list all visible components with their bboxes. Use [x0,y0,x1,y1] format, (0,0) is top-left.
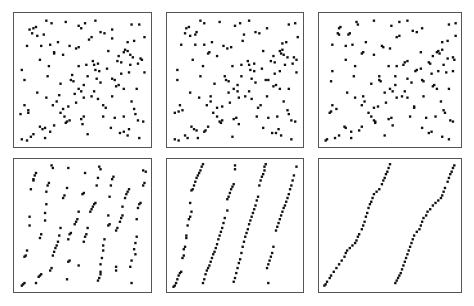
data-point [454,35,456,37]
data-point [216,107,218,109]
data-point [174,138,176,140]
data-point [103,32,105,34]
data-point [116,60,118,62]
data-point [74,223,76,225]
data-point [195,177,197,179]
data-point [361,104,363,106]
data-point [137,62,139,64]
data-point [220,122,222,124]
data-point [99,81,101,83]
data-point [240,75,242,77]
data-point [434,115,436,117]
data-point [263,169,265,171]
data-point [385,173,387,175]
data-point [416,69,418,71]
data-point [59,227,61,229]
data-point [102,244,104,246]
data-point [23,79,25,81]
data-point [341,259,343,261]
data-point [189,91,191,93]
data-point [426,211,428,213]
data-point [275,84,277,86]
data-point [229,101,231,103]
data-point [286,197,288,199]
data-point [402,264,404,266]
data-point [279,88,281,90]
data-point [32,133,34,135]
data-point [254,81,256,83]
data-point [186,137,188,139]
data-point [80,118,82,120]
data-point [358,233,360,235]
data-point [351,244,353,246]
data-point [145,171,147,173]
data-point [409,115,411,117]
data-point [62,197,64,199]
data-point [406,253,408,255]
data-point [213,83,215,85]
data-point [243,33,245,35]
data-point [86,133,88,135]
data-point [381,183,383,185]
data-point [387,167,389,169]
data-point [331,104,333,106]
data-point [222,45,224,47]
data-point [23,104,25,106]
data-point [133,108,135,110]
data-point [83,115,85,117]
data-point [43,33,45,35]
data-point [192,59,194,61]
data-point [40,45,42,47]
data-point [330,80,332,82]
data-point [370,201,372,203]
data-point [46,184,48,186]
data-point [57,41,59,43]
data-point [212,253,214,255]
data-point [35,26,37,28]
data-point [425,214,427,216]
data-point [394,84,396,86]
data-point [56,100,58,102]
data-point [68,119,70,121]
data-point [412,30,414,32]
data-point [265,163,267,165]
data-point [425,117,427,119]
data-point [120,217,122,219]
data-point [185,234,187,236]
data-point [75,101,77,103]
data-point [110,127,112,129]
data-point [75,221,77,223]
data-point [406,20,408,22]
data-point [404,261,406,263]
data-point [134,253,136,255]
data-point [56,244,58,246]
data-point [286,56,288,58]
data-point [52,167,54,169]
data-point [390,117,392,119]
data-point [63,194,65,196]
data-point [239,258,241,260]
data-point [99,31,101,33]
data-point [442,109,444,111]
data-point [101,257,103,259]
data-point [66,278,68,280]
data-point [373,193,375,195]
data-point [290,119,292,121]
data-point [117,84,119,86]
data-point [92,206,94,208]
data-point [248,64,250,66]
data-point [281,49,283,51]
data-point [338,33,340,35]
data-point [133,248,135,250]
data-point [326,281,328,283]
data-point [365,41,367,43]
data-point [45,20,47,22]
data-point [326,138,328,140]
data-point [77,65,79,67]
data-point [279,50,281,52]
data-point [32,179,34,181]
data-point [258,32,260,34]
data-point [254,204,256,206]
data-point [288,193,290,195]
data-point [111,178,113,180]
